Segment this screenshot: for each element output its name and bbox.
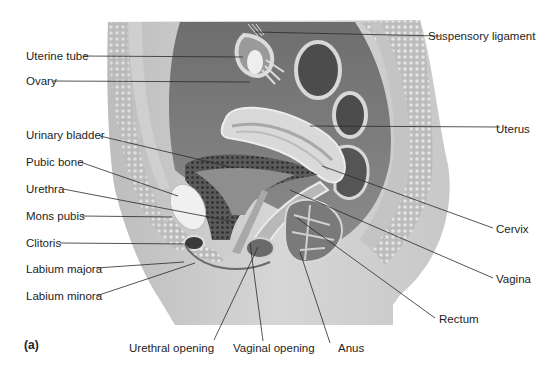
label-urethral-opening: Urethral opening bbox=[129, 341, 214, 355]
label-mons-pubis: Mons pubis bbox=[26, 209, 85, 223]
label-rectum: Rectum bbox=[439, 312, 479, 326]
anatomy-figure: Uterine tube Ovary Urinary bladder Pubic… bbox=[0, 0, 550, 372]
ovary-shape bbox=[247, 50, 263, 74]
label-urethra: Urethra bbox=[26, 182, 64, 196]
label-clitoris: Clitoris bbox=[26, 236, 61, 250]
label-ovary: Ovary bbox=[26, 74, 57, 88]
label-labium-minora: Labium minora bbox=[26, 289, 102, 303]
label-vagina: Vagina bbox=[496, 272, 531, 286]
label-cervix: Cervix bbox=[496, 222, 529, 236]
label-suspensory-ligament: Suspensory ligament bbox=[428, 29, 535, 43]
label-uterus: Uterus bbox=[496, 122, 530, 136]
label-labium-majora: Labium majora bbox=[26, 262, 102, 276]
label-vaginal-opening: Vaginal opening bbox=[233, 341, 315, 355]
label-uterine-tube: Uterine tube bbox=[26, 49, 89, 63]
label-anus: Anus bbox=[338, 341, 364, 355]
label-urinary-bladder: Urinary bladder bbox=[26, 128, 105, 142]
panel-label: (a) bbox=[24, 338, 39, 352]
label-pubic-bone: Pubic bone bbox=[26, 155, 84, 169]
